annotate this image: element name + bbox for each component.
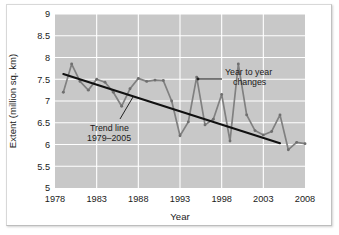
chart-svg: 98.587.576.565.55 1978198319881993199820… [0,0,339,235]
x-tick-1983: 1983 [86,194,106,204]
trend-line-label-line1: Trend line [90,123,129,133]
y-tick-5-5: 5.5 [37,162,50,172]
y-tick-8-5: 8.5 [37,31,50,41]
x-tick-2008: 2008 [295,194,315,204]
x-axis-tick-labels: 1978198319881993199820032008 [45,194,315,204]
y-axis-title: Extent (million sq. km) [7,54,18,148]
x-tick-1998: 1998 [211,194,231,204]
sea-ice-extent-chart: 98.587.576.565.55 1978198319881993199820… [0,0,339,235]
y-tick-8: 8 [45,53,50,63]
y-tick-6-5: 6.5 [37,118,50,128]
x-tick-2003: 2003 [253,194,273,204]
year-to-year-leader-dot [197,78,200,81]
y-axis-tick-labels: 98.587.576.565.55 [37,9,50,193]
y-tick-9: 9 [45,9,50,19]
x-tick-1988: 1988 [128,194,148,204]
x-tick-1978: 1978 [45,194,65,204]
trend-line-label-line2: 1979–2005 [87,133,131,143]
year-to-year-label-line1: Year to year [225,67,272,77]
y-tick-7-5: 7.5 [37,75,50,85]
y-tick-7: 7 [45,96,50,106]
x-tick-1993: 1993 [170,194,190,204]
x-axis-title: Year [170,211,190,222]
year-to-year-label-line2: changes [233,77,267,87]
y-tick-5: 5 [45,183,50,193]
y-tick-6: 6 [45,140,50,150]
